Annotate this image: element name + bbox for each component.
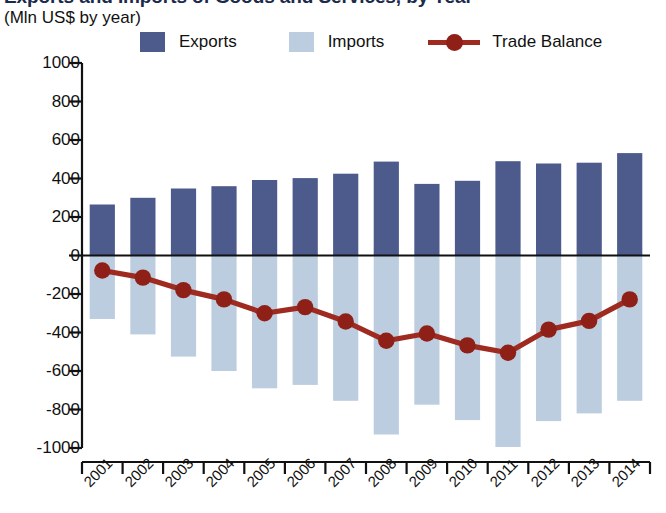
bar-exports xyxy=(90,205,115,256)
trade-balance-point xyxy=(378,333,394,349)
bar-imports xyxy=(130,256,155,335)
bar-exports xyxy=(211,186,236,255)
trade-balance-point xyxy=(297,299,313,315)
bar-exports xyxy=(252,180,277,256)
trade-balance-point xyxy=(459,337,475,353)
trade-balance-point xyxy=(622,291,638,307)
bar-exports xyxy=(374,162,399,256)
bar-exports xyxy=(171,189,196,256)
trade-balance-point xyxy=(500,345,516,361)
bar-exports xyxy=(495,161,520,255)
chart-plot-area: 10008006004002000-200-400-600-800-1000 2… xyxy=(0,0,666,513)
bar-imports xyxy=(617,256,642,401)
trade-balance-point xyxy=(135,269,151,285)
bar-imports xyxy=(536,256,561,422)
trade-balance-point xyxy=(540,321,556,337)
bar-imports xyxy=(577,256,602,414)
trade-balance-point xyxy=(419,325,435,341)
trade-balance-point xyxy=(94,262,110,278)
bar-exports xyxy=(617,153,642,255)
bar-exports xyxy=(333,174,358,256)
bar-exports xyxy=(455,181,480,256)
bar-imports xyxy=(171,256,196,357)
bar-exports xyxy=(293,178,318,255)
bar-exports xyxy=(130,198,155,256)
bar-exports xyxy=(414,184,439,256)
trade-balance-point xyxy=(338,313,354,329)
trade-balance-point xyxy=(175,282,191,298)
bar-imports xyxy=(211,256,236,372)
bar-exports xyxy=(536,164,561,256)
chart-canvas xyxy=(0,0,666,513)
trade-balance-point xyxy=(216,291,232,307)
bar-imports xyxy=(252,256,277,389)
trade-balance-point xyxy=(581,313,597,329)
bar-exports xyxy=(577,163,602,256)
trade-balance-point xyxy=(256,305,272,321)
bar-imports xyxy=(293,256,318,385)
